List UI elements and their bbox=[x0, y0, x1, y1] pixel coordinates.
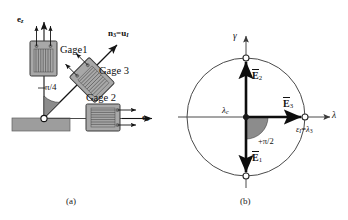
caption-panel-a: (a) bbox=[66, 196, 76, 206]
gage2-body bbox=[86, 104, 136, 131]
label-vector-e3: E3 bbox=[283, 98, 293, 109]
origin-node bbox=[41, 115, 47, 121]
node-right-principal bbox=[302, 114, 308, 120]
figure-canvas bbox=[0, 0, 348, 220]
label-gage2: Gage 2 bbox=[86, 92, 116, 103]
panel-b-mohr-circle bbox=[178, 36, 330, 188]
label-lambda-c: λc bbox=[222, 105, 229, 115]
label-axis-gamma: γ bbox=[233, 31, 237, 41]
node-bottom bbox=[243, 173, 249, 179]
label-angle-pi-over-4: π/4 bbox=[45, 82, 57, 92]
label-e-z: ez bbox=[17, 14, 23, 24]
label-angle-plus-pi-over-2: +π/2 bbox=[258, 136, 274, 146]
label-axis-lambda: λ bbox=[332, 110, 336, 120]
panel-a-strain-gage-rosette bbox=[0, 0, 348, 220]
label-gage3: Gage 3 bbox=[99, 65, 129, 76]
label-vector-e1: E1 bbox=[252, 152, 262, 163]
caption-panel-b: (b) bbox=[240, 196, 251, 206]
label-epsilon-I-equals-lambda3: εI=λ3 bbox=[296, 124, 313, 134]
node-top bbox=[243, 55, 249, 61]
label-n3-equals-uI: n3=uI bbox=[108, 28, 129, 38]
label-e-theta: eθ bbox=[142, 112, 149, 122]
angle-wedge-pi-over-4 bbox=[44, 96, 60, 118]
label-vector-e2: E2 bbox=[252, 70, 262, 81]
node-center bbox=[243, 114, 248, 119]
label-gage1: Gage1 bbox=[60, 44, 87, 55]
